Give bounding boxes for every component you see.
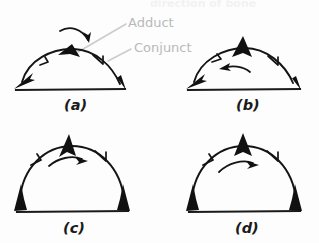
- panel-a-baseline: [16, 89, 125, 90]
- annotation-conjunct-label: Conjunct: [134, 40, 192, 55]
- panel-b-baseline: [188, 89, 300, 90]
- panel-a-label: (a): [64, 97, 87, 113]
- panel-c-label: (c): [63, 220, 85, 236]
- panel-d-label: (d): [235, 220, 259, 236]
- header-caption: direction of bone: [150, 0, 256, 10]
- paper-background: [0, 0, 319, 243]
- annotation-adduct-label: Adduct: [128, 15, 174, 30]
- arch-diagram-figure: direction of bone Adduct Conjunct: [0, 0, 319, 243]
- panel-d-baseline: [189, 211, 300, 212]
- figure-canvas: direction of bone Adduct Conjunct: [0, 0, 319, 243]
- panel-c-baseline: [17, 211, 128, 212]
- panel-b-label: (b): [236, 97, 260, 113]
